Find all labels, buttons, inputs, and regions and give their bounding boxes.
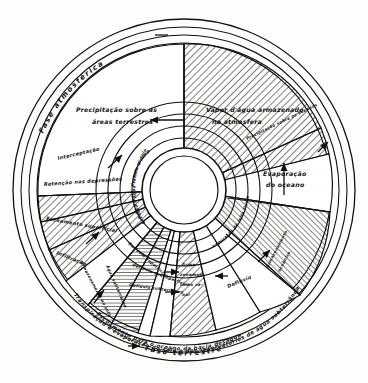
label-armazenamento-canal-line4: nal [182, 292, 190, 297]
hydrological-cycle-figure: Fase atmosférica Fase terrestre Transpir… [0, 0, 368, 383]
label-vapor-atmosfera-line1: Vapor d'água armazenado [206, 106, 304, 114]
label-armazenamento-canal-line1: Arma- [181, 262, 197, 267]
cycle-diagram-svg: Fase atmosférica Fase terrestre Transpir… [0, 0, 368, 383]
label-evaporacao-oceano-line2: do oceano [266, 181, 305, 188]
label-precipitacao-terrestre-line1: Precipitação sobre as [76, 106, 157, 114]
label-evaporacao-oceano-line1: Evaporação [263, 170, 307, 178]
label-vapor-atmosfera-line2: na atmosfera [212, 118, 262, 125]
label-precipitacao-terrestre-line2: áreas terrestres [92, 118, 153, 125]
central-hub [142, 148, 226, 232]
label-armazenamento-canal-line3: to no ca- [180, 282, 203, 287]
label-armazenamento-canal-line2: zenamen- [179, 272, 205, 277]
